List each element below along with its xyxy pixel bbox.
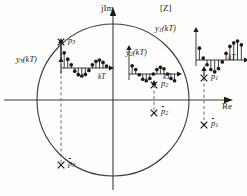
pole-label-p2-conj-base: p: [161, 107, 165, 116]
signal-time-axis-arrow-y1: [244, 57, 247, 62]
pole-label-p1-conj-sub: 1: [215, 122, 218, 128]
signal-sample-y1-5[interactable]: [217, 67, 221, 71]
signal-sample-y1-0[interactable]: [198, 46, 202, 50]
time-axis-label-y3: kT: [98, 73, 106, 81]
real-axis-label: Re: [222, 102, 232, 111]
plane-label: [Z]: [160, 4, 172, 13]
pole-label-p3-conj: p3: [68, 159, 75, 168]
pole-label-p1-conj-base: p: [211, 119, 215, 128]
signal-sample-y1-8[interactable]: [228, 44, 232, 48]
signal-sample-y2-3[interactable]: [141, 77, 145, 81]
signal-label-y1: y1(kT): [155, 24, 176, 33]
signal-sample-y1-6[interactable]: [220, 60, 224, 64]
z-plane-figure: [0, 0, 247, 196]
signal-label-y2-arg: (kT): [133, 47, 147, 57]
signal-time-axis-arrow-y2: [177, 71, 182, 76]
pole-label-p3-conj-sub: 3: [72, 162, 75, 168]
signal-label-y3-arg: (kT): [23, 54, 37, 64]
pole-label-p2-sub: 2: [165, 82, 168, 88]
time-axis-label-y1: kT: [228, 54, 236, 62]
signal-sample-y2-6[interactable]: [152, 72, 156, 76]
signal-sample-y1-9[interactable]: [232, 41, 236, 45]
signal-sample-y2-8[interactable]: [159, 65, 163, 69]
pole-label-p2-conj-sub: 2: [165, 110, 168, 116]
signal-sample-y3-12[interactable]: [105, 64, 109, 68]
signal-sample-y2-0[interactable]: [130, 64, 134, 68]
pole-label-p3-conj-base: p: [68, 159, 72, 168]
signal-sample-y1-1[interactable]: [201, 56, 205, 60]
signal-sample-y3-7[interactable]: [87, 69, 91, 73]
signal-sample-y2-9[interactable]: [162, 67, 166, 71]
signal-sample-y2-5[interactable]: [148, 77, 152, 81]
signal-sample-y1-10[interactable]: [236, 39, 240, 43]
signal-sample-y1-2[interactable]: [205, 63, 209, 67]
signal-sample-y2-12[interactable]: [173, 79, 177, 83]
pole-label-p1-conj: p1: [211, 119, 218, 128]
signal-sample-y3-5[interactable]: [80, 74, 84, 78]
pole-label-p3: p3: [68, 36, 75, 45]
signal-sample-y3-6[interactable]: [84, 73, 88, 77]
signal-sample-y3-3[interactable]: [73, 69, 77, 73]
signal-sample-y3-9[interactable]: [94, 59, 98, 63]
pole-label-p3-sub: 3: [72, 39, 75, 45]
signal-label-y3: y3(kT): [16, 55, 37, 64]
pole-to-signal-arrow-3: [201, 66, 206, 71]
signal-sample-y3-11[interactable]: [101, 61, 105, 65]
pole-label-p1: p1: [211, 72, 218, 81]
pole-label-p1-sub: 1: [215, 75, 218, 81]
signal-sample-y2-4[interactable]: [144, 79, 148, 83]
signal-sample-y3-1[interactable]: [66, 57, 70, 61]
signal-sample-y3-10[interactable]: [98, 58, 102, 62]
signal-sample-y3-4[interactable]: [76, 73, 80, 77]
imaginary-axis-label: jIm: [101, 4, 114, 13]
pole-label-p2: p2: [161, 79, 168, 88]
signal-sample-y1-11[interactable]: [239, 43, 243, 47]
signal-sample-y3-2[interactable]: [69, 63, 73, 67]
signal-amplitude-arrow-y1: [193, 27, 198, 32]
signal-sample-y3-8[interactable]: [91, 63, 95, 67]
signal-sample-y2-7[interactable]: [155, 68, 159, 72]
signal-sample-y3-0[interactable]: [62, 51, 66, 55]
signal-sample-y2-2[interactable]: [137, 73, 141, 77]
signal-label-y2: y2(kT): [126, 48, 147, 57]
signal-label-y1-arg: (kT): [162, 23, 176, 33]
pole-label-p2-conj: p2: [161, 107, 168, 116]
signal-sample-y2-1[interactable]: [134, 68, 138, 72]
figure-root: jIm [Z] Re y1(kT) y2(kT) y3(kT) kT kT kT…: [0, 0, 247, 196]
